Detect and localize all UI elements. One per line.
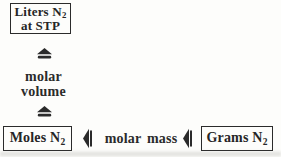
molar-mass-label: molar mass xyxy=(97,126,185,151)
grams-subscript: 2 xyxy=(263,137,268,147)
liters-subscript: 2 xyxy=(62,10,67,20)
moles-n2-box: Moles N2 xyxy=(3,126,72,151)
molar-volume-line2: volume xyxy=(7,84,80,99)
conversion-arrow-up-icon-top xyxy=(36,48,53,59)
page-scan-shadow xyxy=(0,150,281,157)
conversion-arrow-left-icon-1 xyxy=(83,127,92,150)
conversion-arrow-up-icon-bottom xyxy=(36,106,53,117)
mole-conversion-diagram: Liters N2 at STP molar volume Moles N2 m… xyxy=(0,0,281,157)
conversion-arrow-left-icon-2 xyxy=(183,127,192,150)
molar-volume-line1: molar xyxy=(7,69,80,84)
liters-box-line1: Liters N2 xyxy=(11,5,70,19)
grams-n2-box: Grams N2 xyxy=(201,126,273,151)
liters-n2-box: Liters N2 at STP xyxy=(10,3,71,34)
liters-box-line2: at STP xyxy=(11,19,70,33)
moles-subscript: 2 xyxy=(60,137,65,147)
molar-volume-label: molar volume xyxy=(7,69,80,99)
